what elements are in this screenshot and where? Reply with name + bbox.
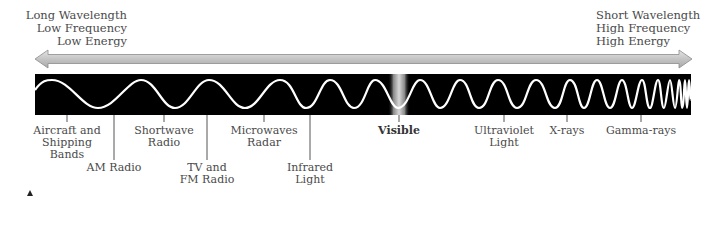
label-line: AM Radio	[87, 162, 142, 174]
label-line: Visible	[378, 125, 420, 137]
label-line: Light	[474, 137, 534, 149]
label-line: Bands	[33, 149, 100, 161]
label-tv-fm: TV and FM Radio	[180, 162, 235, 186]
label-ultraviolet: Ultraviolet Light	[474, 125, 534, 149]
label-x-rays: X-rays	[550, 125, 585, 137]
label-am-radio: AM Radio	[87, 162, 142, 174]
label-line: Radio	[134, 137, 194, 149]
label-line: FM Radio	[180, 174, 235, 186]
label-shortwave: Shortwave Radio	[134, 125, 194, 149]
bidirectional-arrow	[35, 50, 692, 68]
label-line: Radar	[230, 137, 297, 149]
label-line: Light	[287, 174, 333, 186]
label-line: Gamma-rays	[606, 125, 676, 137]
label-aircraft: Aircraft and Shipping Bands	[33, 125, 100, 161]
spectrum-band	[35, 74, 691, 115]
label-infrared: Infrared Light	[287, 162, 333, 186]
label-microwaves: Microwaves Radar	[230, 125, 297, 149]
label-gamma-rays: Gamma-rays	[606, 125, 676, 137]
label-line: X-rays	[550, 125, 585, 137]
label-visible: Visible	[378, 125, 420, 137]
corner-triangle-icon	[27, 190, 33, 196]
